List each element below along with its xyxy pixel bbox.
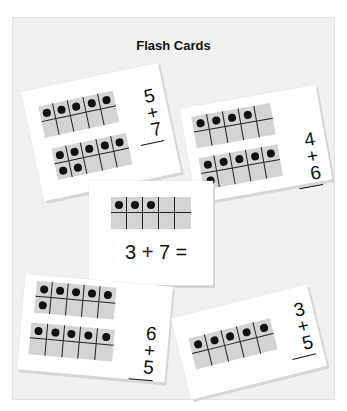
counter-dot (102, 332, 111, 341)
counter-dot (38, 301, 47, 310)
counter-dot (227, 113, 236, 122)
counter-dot (42, 108, 51, 117)
addition-problem: 4 + 6 (288, 130, 323, 190)
counter-dot (234, 154, 243, 163)
addition-problem: 6 + 5 (127, 323, 158, 381)
counter-dot (115, 201, 123, 209)
addition-problem: 3 + 5 (277, 300, 316, 361)
counter-dot (147, 201, 155, 209)
bottom-addend: + 6 (291, 147, 323, 185)
counter-dot (104, 290, 113, 299)
counter-dot (68, 329, 77, 338)
counter-dot (73, 163, 82, 172)
ten-frame (111, 197, 191, 229)
counter-dot (193, 339, 203, 349)
counter-dot (72, 101, 81, 110)
ten-frame (51, 133, 132, 180)
bottom-addend: + 7 (131, 103, 164, 142)
equation: 3 + 7 = (125, 241, 187, 264)
addition-problem: 5 + 7 (127, 86, 164, 146)
counter-dot (131, 201, 139, 209)
flash-card-3-plus-5: 3 + 5 (171, 284, 327, 399)
sum-line (299, 184, 323, 189)
flash-cards-panel: Flash Cards 5 + 7 (12, 17, 335, 400)
ten-frame (34, 281, 116, 320)
bottom-addend: + 5 (281, 316, 314, 355)
counter-dot (59, 166, 68, 175)
counter-dot (203, 160, 212, 169)
ten-frame (28, 322, 114, 361)
counter-dot (100, 140, 109, 149)
counter-dot (209, 335, 219, 345)
counter-dot (51, 328, 60, 337)
counter-dot (102, 95, 111, 104)
counter-dot (195, 118, 204, 127)
counter-dot (115, 137, 124, 146)
sum-line (292, 353, 316, 360)
counter-dot (85, 143, 94, 152)
counter-dot (242, 327, 252, 337)
flash-card-6-plus-5: 6 + 5 (17, 274, 173, 383)
flash-card-3-plus-7: 3 + 7 = (89, 181, 213, 285)
ten-frame (191, 103, 275, 148)
counter-dot (259, 323, 269, 333)
counter-dot (57, 104, 66, 113)
sum-line (141, 140, 165, 146)
counter-dot (226, 331, 236, 341)
counter-dot (87, 289, 96, 298)
counter-dot (243, 110, 252, 119)
counter-dot (211, 115, 220, 124)
counter-dot (55, 286, 64, 295)
counter-dot (250, 151, 259, 160)
counter-dot (71, 287, 80, 296)
bottom-addend: + 5 (127, 340, 156, 376)
counter-dot (39, 285, 48, 294)
counter-dot (70, 147, 79, 156)
counter-dot (84, 331, 93, 340)
counter-dot (218, 157, 227, 166)
ten-frame (38, 91, 119, 138)
counter-dot (34, 326, 43, 335)
sum-line (129, 378, 153, 381)
ten-frame (188, 318, 277, 369)
counter-dot (266, 148, 275, 157)
page-title: Flash Cards (13, 38, 334, 53)
counter-dot (87, 98, 96, 107)
counter-dot (55, 150, 64, 159)
